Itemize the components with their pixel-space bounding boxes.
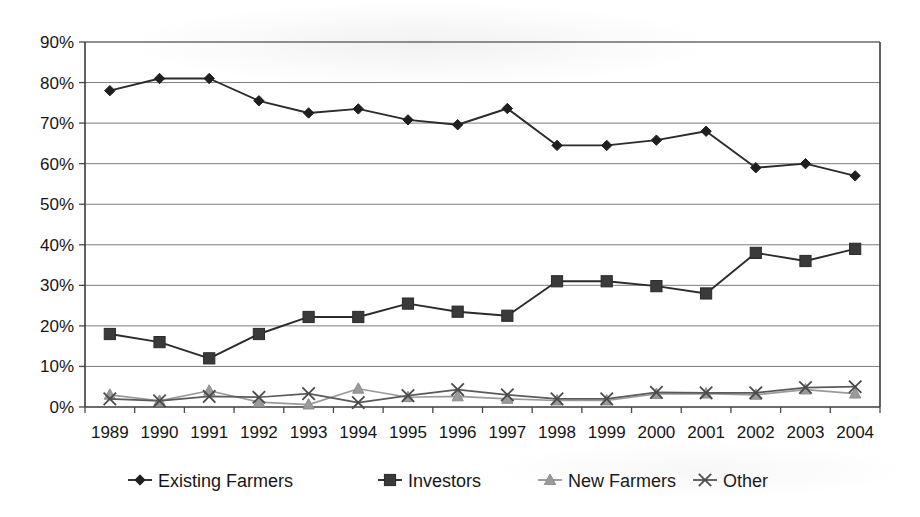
data-point-square [452,306,463,317]
grid-layer [85,42,880,366]
y-axis-tick-label: 70% [40,114,74,133]
data-point-diamond [452,120,462,130]
data-point-diamond [303,108,313,118]
data-point-square [353,311,364,322]
line-chart: 90%80%70%60%50%40%30%20%10%0% 1989199019… [0,0,920,517]
data-point-square [551,276,562,287]
x-axis-tick-label: 1998 [538,423,576,442]
data-point-diamond [850,171,860,181]
series-investors [104,243,861,364]
legend-item-existing-farmers[interactable]: Existing Farmers [128,471,293,491]
x-axis-tick-label: 1999 [588,423,626,442]
data-point-diamond [105,85,115,95]
y-axis-tick-label: 60% [40,155,74,174]
y-axis-tick-label: 80% [40,74,74,93]
series-layer [104,73,862,409]
x-axis-tick-label: 2003 [787,423,825,442]
data-point-square [800,255,811,266]
y-axis-tick-label: 10% [40,357,74,376]
x-axis-tick-label: 1992 [240,423,278,442]
y-axis-tick-label: 90% [40,33,74,52]
y-axis-tick-label: 0% [49,398,74,417]
x-axis-tick-label: 2000 [637,423,675,442]
legend-label: Investors [408,471,481,491]
x-axis-tick-label: 1990 [141,423,179,442]
series-polyline [110,79,855,176]
data-point-square [154,337,165,348]
x-axis-tick-label: 2004 [836,423,874,442]
y-axis-tick-label: 40% [40,236,74,255]
data-point-square [402,298,413,309]
legend-item-new-farmers[interactable]: New Farmers [538,471,676,491]
ytick-layer: 90%80%70%60%50%40%30%20%10%0% [40,33,74,417]
series-existing-farmers [105,73,861,181]
x-axis-tick-label: 1997 [488,423,526,442]
data-point-square [204,353,215,364]
x-axis-tick-label: 1989 [91,423,129,442]
data-point-triangle [353,383,364,393]
data-point-square [700,288,711,299]
data-point-diamond [602,140,612,150]
data-point-square [104,328,115,339]
data-point-square [502,310,513,321]
x-axis-tick-label: 1996 [439,423,477,442]
series-polyline [110,249,855,359]
chart-canvas: 90%80%70%60%50%40%30%20%10%0% 1989199019… [0,0,920,517]
legend-item-investors[interactable]: Investors [378,471,481,491]
data-point-diamond [800,158,810,168]
data-point-square [601,276,612,287]
x-axis-tick-label: 1994 [339,423,377,442]
data-point-square [303,311,314,322]
data-point-triangle [452,390,463,400]
x-axis-tick-label: 2001 [687,423,725,442]
xtick-layer: 1989199019911992199319941995199619971998… [91,423,874,442]
data-point-diamond [135,475,145,485]
data-point-diamond [651,135,661,145]
data-point-diamond [254,96,264,106]
data-point-square [651,281,662,292]
data-point-square [253,328,264,339]
x-axis-tick-label: 2002 [737,423,775,442]
data-point-square [384,474,395,485]
x-axis-tick-label: 1993 [290,423,328,442]
legend-layer: Existing FarmersInvestorsNew FarmersOthe… [128,471,768,491]
legend-label: New Farmers [568,471,676,491]
y-axis-tick-label: 50% [40,195,74,214]
axis-layer [79,42,880,413]
data-point-square [750,247,761,258]
legend-label: Existing Farmers [158,471,293,491]
x-axis-tick-label: 1991 [190,423,228,442]
legend-item-other[interactable]: Other [693,471,768,491]
data-point-square [850,243,861,254]
data-point-diamond [353,104,363,114]
y-axis-tick-label: 30% [40,276,74,295]
x-axis-tick-label: 1995 [389,423,427,442]
legend-label: Other [723,471,768,491]
y-axis-tick-label: 20% [40,317,74,336]
